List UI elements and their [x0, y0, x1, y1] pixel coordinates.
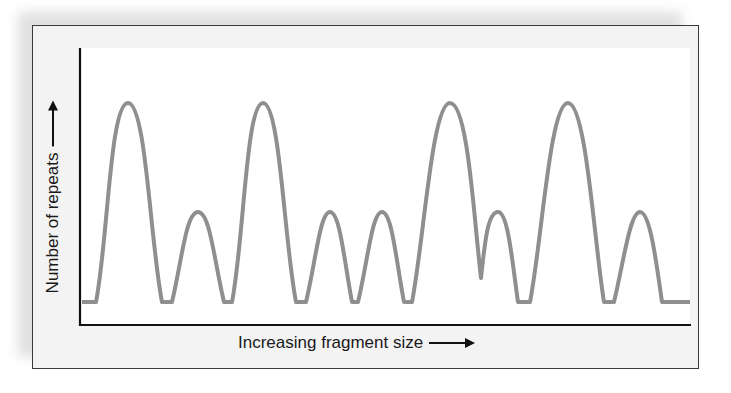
y-axis-label-text: Number of repeats	[43, 153, 63, 294]
x-axis-label-text: Increasing fragment size	[238, 333, 423, 353]
arrow-up-icon	[52, 103, 54, 147]
figure-canvas: Number of repeats Increasing fragment si…	[0, 0, 731, 393]
y-axis-label: Number of repeats	[43, 103, 63, 294]
x-axis-label: Increasing fragment size	[238, 333, 473, 353]
arrow-right-icon	[429, 342, 473, 344]
repeat-count-curve	[82, 103, 690, 302]
